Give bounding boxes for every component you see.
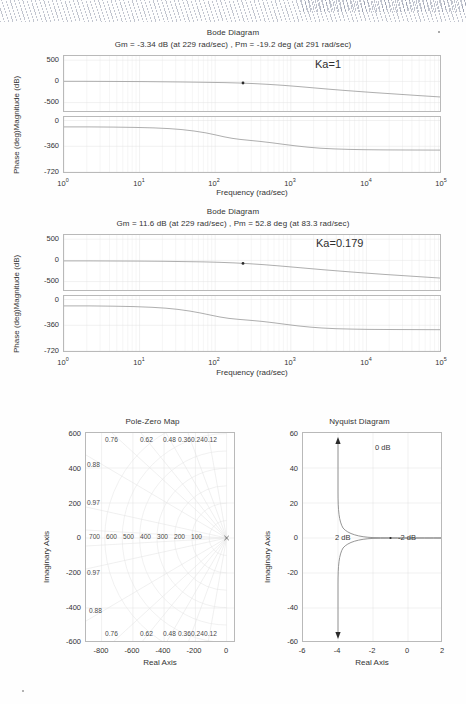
pz-x-tick: -600 [117,646,147,655]
bode-2-ylabel: Phase (deg)Magnitude (dB) [12,255,21,353]
pz-xlabel: Real Axis [85,658,235,667]
bode-2-magnitude-plot [64,235,441,291]
nyquist-lower-branch [338,538,442,636]
pz-wn-label: 400 [140,533,151,540]
pz-wn-label: 500 [123,533,134,540]
pz-damping-label: 0.48 [163,436,176,443]
nyq-x-tick: -2 [358,646,386,655]
nyq-db-label-0: 0 dB [375,443,390,452]
bode-2-mag-tick: -500 [26,276,59,285]
bode-1-phase-axes [63,116,441,173]
bode-2-phase-curve [64,306,441,330]
bode-1-magnitude-curve [64,81,441,97]
pz-damping-label: 0.97 [87,569,100,576]
nyq-xlabel: Real Axis [302,658,442,667]
nyq-y-tick: -20 [273,568,298,577]
nyq-y-tick: 20 [273,499,298,508]
bode-1-gain-annotation: Ka=1 [315,58,341,70]
pz-x-tick: -400 [148,646,178,655]
nyq-x-tick: 2 [428,646,456,655]
pz-damping-label: 0.88 [89,607,102,614]
nyquist-upper-branch [338,440,442,538]
bode-1-magnitude-plot [64,56,441,112]
pz-damping-label: 0.76 [105,436,118,443]
nyquist-plot [303,433,442,642]
pz-damping-label: 0.97 [87,499,100,506]
bode-1-mag-tick: 500 [26,55,59,64]
nyq-x-tick: -4 [323,646,351,655]
figure-nyquist-diagram: Nyquist Diagram Imaginary Axis [255,415,466,690]
bode-2-phase-axes [63,295,441,352]
bode-1-phase-curve [64,127,441,150]
pz-wn-label: 300 [157,533,168,540]
bode-2-phase-tick: 0 [26,295,59,304]
pz-damping-label: 0.76 [105,630,118,637]
nyq-y-tick: 60 [273,429,298,438]
pz-wn-label: 600 [106,533,117,540]
bode-1-magnitude-axes [63,55,441,112]
bode-2-x-tick: 104 [351,356,381,367]
figure-page: Bode Diagram Gm = -3.34 dB (at 229 rad/s… [0,0,466,704]
bode-2-phase-plot [64,296,441,352]
pz-wn-label: 200 [174,533,185,540]
bode-1-mag-tick: -500 [26,97,59,106]
bode-2-mag-tick: 0 [26,255,59,264]
bode-1-x-tick: 101 [124,177,154,188]
pz-title: Pole-Zero Map [60,417,245,426]
bode-1-title: Bode Diagram [0,28,466,37]
pz-x-tick: -200 [179,646,209,655]
pz-y-tick: 0 [50,533,81,542]
bode-2-magnitude-grid [64,235,441,291]
bode-2-x-tick: 101 [124,356,154,367]
bode-2-magnitude-curve [64,261,441,278]
pz-wn-label: 100 [191,533,202,540]
bode-1-x-tick: 102 [199,177,229,188]
nyq-db-label-2: 2 dB [335,533,350,542]
scan-hatch-artifact-secondary [300,0,466,12]
bode-2-x-tick: 100 [48,356,78,367]
figure-pole-zero-map: Pole-Zero Map Imaginary Axis [0,415,255,690]
pz-damping-label: 0.88 [87,461,100,468]
bode-1-x-tick: 103 [275,177,305,188]
nyq-ylabel: Imaginary Axis [263,531,272,583]
bode-1-xlabel: Frequency (rad/sec) [63,188,441,197]
bode-1-phase-plot [64,117,441,173]
bode-2-phase-tick: -360 [26,320,59,329]
pz-y-tick: 200 [50,499,81,508]
bode-2-x-tick: 105 [426,356,456,367]
nyq-db-label-neg2: -2 dB [398,533,416,542]
bode-1-gain-crossover-marker [242,82,245,85]
bode-2-x-tick: 102 [199,356,229,367]
pz-x-tick: 0 [211,646,241,655]
nyq-x-tick: -6 [288,646,316,655]
pz-damping-label: 0.12 [204,436,217,443]
bode-2-gain-annotation: Ka=0.179 [316,237,363,249]
bode-1-phase-tick: -720 [26,167,59,176]
pz-damping-label: 0.24 [191,436,204,443]
pz-y-tick: -400 [50,603,81,612]
bode-2-title: Bode Diagram [0,207,466,216]
pz-y-tick: -600 [50,637,81,646]
pz-y-tick: -200 [50,568,81,577]
bode-1-x-tick: 104 [351,177,381,188]
nyq-y-tick: -40 [273,603,298,612]
pz-damping-label: 0.36 [178,436,191,443]
bode-1-ylabel: Phase (deg)Magnitude (dB) [12,76,21,174]
pz-damping-label: 0.62 [140,436,153,443]
pz-damping-label: 0.24 [191,630,204,637]
nyq-y-tick: 40 [273,464,298,473]
bode-2-phase-grid [64,296,441,352]
nyquist-arrow-up-icon [335,437,340,444]
bode-1-x-tick: 105 [426,177,456,188]
nyquist-axes [302,432,442,642]
pz-y-tick: 400 [50,464,81,473]
bode-1-phase-tick: -360 [26,141,59,150]
bode-2-gain-crossover-marker [242,262,245,265]
pz-damping-label: 0.48 [163,630,176,637]
bode-1-phase-grid [64,117,441,173]
bode-2-x-tick: 103 [275,356,305,367]
nyquist-critical-point-marker [389,537,391,539]
pz-wn-label: 700 [89,533,100,540]
pz-damping-label: 0.62 [140,630,153,637]
bode-2-xlabel: Frequency (rad/sec) [63,368,441,377]
